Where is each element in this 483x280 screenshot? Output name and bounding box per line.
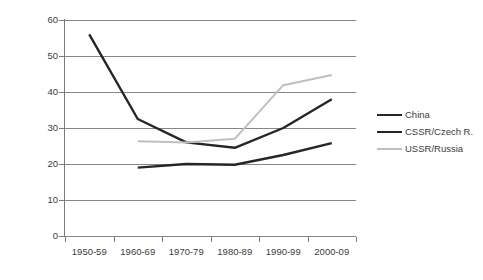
legend-item-label: CSSR/Czech R. (405, 126, 473, 137)
legend-item-label: USSR/Russia (405, 143, 463, 154)
line-chart: 0102030405060 1950-591960-691970-791980-… (0, 0, 483, 280)
legend-item[interactable]: China (377, 106, 482, 123)
legend-item[interactable]: USSR/Russia (377, 140, 482, 157)
series-line (89, 34, 332, 147)
legend-item[interactable]: CSSR/Czech R. (377, 123, 482, 140)
legend-swatch-line-icon (377, 114, 402, 116)
chart-legend: ChinaCSSR/Czech R.USSR/Russia (377, 106, 482, 157)
legend-swatch-line-icon (377, 148, 402, 150)
legend-swatch-line-icon (377, 131, 402, 133)
legend-item-label: China (405, 109, 430, 120)
